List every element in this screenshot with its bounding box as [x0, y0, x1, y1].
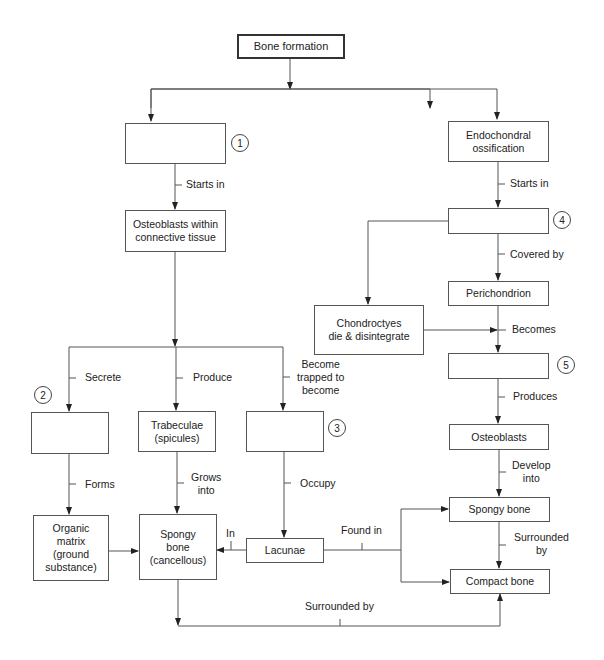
bone-formation-box: Bone formation — [237, 34, 345, 59]
label-become-trapped: Become trapped to become — [297, 358, 344, 397]
label-occupy: Occupy — [300, 477, 336, 490]
box-2-blank — [31, 412, 109, 454]
number-3-circle: 3 — [328, 419, 346, 437]
number-2-circle: 2 — [34, 386, 52, 404]
label-surrounded-by-bottom: Surrounded by — [305, 600, 374, 613]
number-1-circle: 1 — [231, 134, 249, 152]
box-4-blank — [448, 208, 549, 234]
spongy-bone-right-box: Spongy bone — [449, 497, 550, 522]
label-produce: Produce — [193, 371, 232, 384]
chondrocytes-box: Chondroctyes die & disintegrate — [314, 305, 424, 355]
number-5-circle: 5 — [557, 356, 575, 374]
osteoblasts-connective-tissue-box: Osteoblasts within connective tissue — [125, 210, 226, 252]
perichondrion-box: Perichondrion — [448, 281, 549, 306]
endochondral-ossification-box: Endochondral ossification — [448, 121, 549, 162]
trabeculae-box: Trabeculae (spicules) — [138, 411, 216, 452]
label-surrounded-by-right: Surrounded by — [514, 531, 569, 557]
label-secrete: Secrete — [85, 371, 121, 384]
label-starts-in-left: Starts in — [186, 178, 225, 191]
number-4-circle: 4 — [553, 211, 571, 229]
box-3-blank — [246, 411, 324, 452]
label-becomes: Becomes — [512, 323, 556, 336]
label-produces: Produces — [513, 390, 557, 403]
label-forms: Forms — [85, 478, 115, 491]
box-5-blank — [448, 353, 549, 379]
lacunae-box: Lacunae — [246, 538, 324, 563]
label-in: In — [226, 527, 235, 540]
label-starts-in-right: Starts in — [510, 177, 549, 190]
organic-matrix-box: Organic matrix (ground substance) — [33, 515, 109, 581]
osteoblasts-right-box: Osteoblasts — [449, 424, 549, 450]
label-develop-into: Develop into — [512, 459, 551, 485]
label-covered-by: Covered by — [510, 248, 564, 261]
label-grows-into: Grows into — [191, 471, 221, 497]
spongy-bone-cancellous-box: Spongy bone (cancellous) — [139, 514, 217, 580]
label-found-in: Found in — [341, 524, 382, 537]
compact-bone-box: Compact bone — [450, 569, 550, 594]
box-1-blank — [125, 123, 226, 164]
